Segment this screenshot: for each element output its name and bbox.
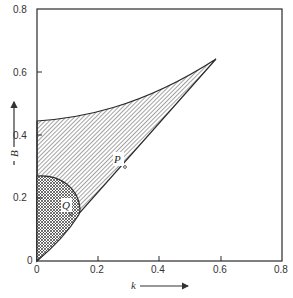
- y-tick-0.4: 0.4: [13, 130, 27, 141]
- y-tick-0.2: 0.2: [13, 192, 27, 203]
- chart-canvas: P Q 0.2 0.4 0.6 0.8 0 0 0.2 0.4 0.6 0.8 …: [0, 0, 293, 298]
- x-axis-label: k: [131, 279, 137, 291]
- x-tick-0.2: 0.2: [90, 264, 104, 275]
- x-tick-0.4: 0.4: [151, 264, 165, 275]
- x-axis-ticks: [98, 256, 221, 261]
- y-tick-0.8: 0.8: [13, 4, 27, 15]
- y-tick-0.6: 0.6: [13, 67, 27, 78]
- region-p-label: P: [113, 153, 121, 165]
- y-axis-label: B: [8, 150, 20, 157]
- x-tick-0.8: 0.8: [274, 264, 288, 275]
- origin-label: 0: [27, 255, 33, 266]
- region-q-label: Q: [62, 199, 70, 211]
- x-tick-0: 0: [34, 264, 40, 275]
- x-tick-0.6: 0.6: [213, 264, 227, 275]
